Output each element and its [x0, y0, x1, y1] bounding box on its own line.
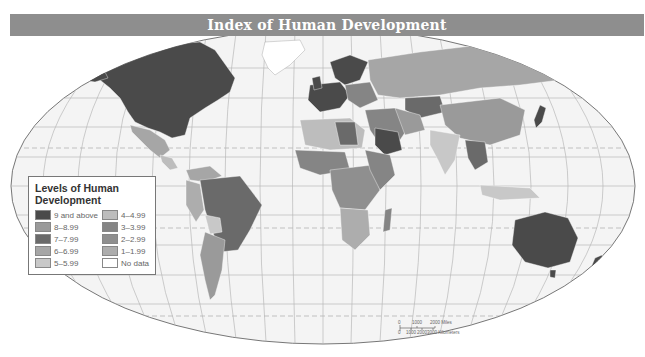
legend-label: 3–3.99	[121, 223, 145, 232]
legend-item: 2–2.99	[102, 234, 150, 244]
legend-title: Levels of Human Development	[35, 182, 150, 206]
legend-label: 1–1.99	[121, 247, 145, 256]
legend-item: No data	[102, 258, 150, 268]
legend-item: 1–1.99	[102, 246, 150, 256]
legend-item: 4–4.99	[102, 210, 150, 220]
legend-swatch	[35, 246, 51, 256]
legend-item: 7–7.99	[35, 234, 98, 244]
legend-item: 5–5.99	[35, 258, 98, 268]
legend-label: 5–5.99	[54, 259, 78, 268]
legend-item: 9 and above	[35, 210, 98, 220]
scale-bar: 0 1000 2000 Miles 0 1000 2000 3000 Kilom…	[398, 320, 478, 340]
legend-label: 8–8.99	[54, 223, 78, 232]
legend: Levels of Human Development 9 and above …	[28, 176, 156, 275]
map-title: Index of Human Development	[10, 14, 644, 36]
scale-km-0: 0	[398, 330, 401, 335]
legend-label: 2–2.99	[121, 235, 145, 244]
legend-item: 8–8.99	[35, 222, 98, 232]
legend-item: 6–6.99	[35, 246, 98, 256]
legend-swatch	[35, 210, 51, 220]
legend-swatch	[102, 258, 118, 268]
legend-swatch	[35, 222, 51, 232]
legend-item: 3–3.99	[102, 222, 150, 232]
legend-swatch	[102, 222, 118, 232]
legend-swatch	[35, 258, 51, 268]
legend-grid: 9 and above 4–4.99 8–8.99 3–3.99 7–7.99 …	[35, 210, 150, 268]
legend-label: No data	[121, 259, 149, 268]
legend-label: 7–7.99	[54, 235, 78, 244]
legend-label: 4–4.99	[121, 211, 145, 220]
legend-swatch	[102, 234, 118, 244]
scale-km-1000: 1000	[406, 330, 416, 335]
scale-km-3000: 3000 Kilometers	[427, 330, 460, 335]
legend-swatch	[35, 234, 51, 244]
region-tasmania	[550, 270, 556, 278]
legend-swatch	[102, 246, 118, 256]
scale-miles-1000: 1000	[412, 320, 422, 325]
scale-miles-0: 0	[398, 320, 401, 325]
region-uk	[312, 76, 322, 90]
scale-miles-2000: 2000 Miles	[430, 320, 452, 325]
legend-label: 6–6.99	[54, 247, 78, 256]
legend-swatch	[102, 210, 118, 220]
legend-label: 9 and above	[54, 211, 98, 220]
scale-km-2000: 2000	[417, 330, 427, 335]
region-alaska	[80, 62, 108, 82]
